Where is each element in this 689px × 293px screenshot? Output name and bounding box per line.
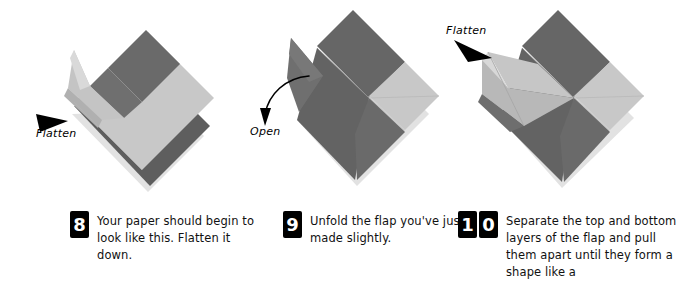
open-arrowhead-icon — [260, 108, 271, 126]
flatten-annotation-label-step-10: Flatten — [446, 24, 487, 37]
caption-step-10: 1 0 Separate the top and bottom layers o… — [458, 211, 688, 281]
origami-diagram-step-9 — [245, 2, 445, 202]
step-number-badge-8: 8 — [70, 211, 89, 238]
instruction-sheet: Flatten Open — [0, 0, 689, 293]
origami-diagram-step-8 — [28, 2, 238, 202]
step-number-digit: 1 — [458, 211, 477, 238]
flatten-arrow-icon — [454, 40, 492, 62]
step-number-digit: 0 — [479, 211, 498, 238]
caption-text: Separate the top and bottom layers of th… — [506, 211, 688, 281]
step-number-badge-10: 1 0 — [458, 211, 498, 238]
step-number-badge-9: 9 — [283, 211, 302, 238]
caption-step-8: 8 Your paper should begin to look like t… — [70, 211, 260, 264]
caption-text: Your paper should begin to look like thi… — [97, 211, 260, 264]
flatten-annotation-label-step-8: Flatten — [36, 127, 77, 140]
step-number-digit: 9 — [283, 211, 302, 238]
caption-step-9: 9 Unfold the flap you've just made sligh… — [283, 211, 483, 247]
open-annotation-label-step-9: Open — [250, 125, 281, 138]
step-number-digit: 8 — [70, 211, 89, 238]
